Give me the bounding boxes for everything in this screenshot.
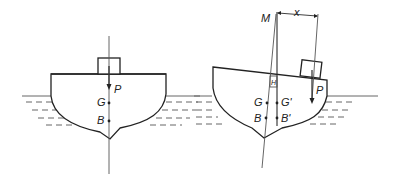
deck-load-box-heeled [300,60,322,78]
label-G-heeled: G [254,97,263,108]
label-G-upright: G [97,97,106,108]
gravity-point [108,102,111,105]
label-G-prime: G' [281,97,292,108]
buoyancy-point [108,120,111,123]
label-P-upright: P [114,84,121,95]
label-x: x [294,7,300,18]
label-B-prime: B' [281,113,290,124]
label-H: H [271,79,276,86]
label-M: M [261,13,270,24]
heeled-ship [194,11,378,168]
diagram-canvas [0,0,394,179]
label-B-heeled: B [254,113,261,124]
upright-ship [22,36,200,174]
label-B-upright: B [97,115,104,126]
label-P-heeled: P [316,85,323,96]
